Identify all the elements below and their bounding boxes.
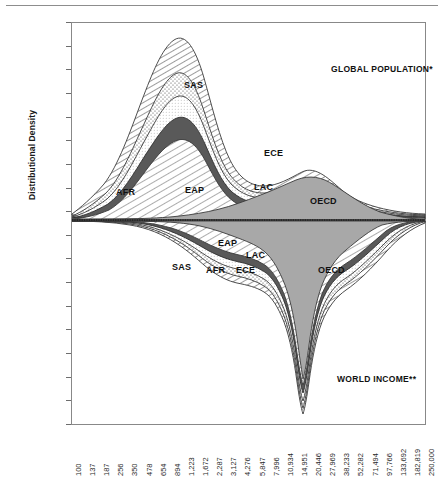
region-label-bottom-sas: SAS <box>172 262 191 272</box>
chart-annotation: WORLD INCOME** <box>337 374 416 384</box>
region-label-bottom-eap: EAP <box>218 238 237 248</box>
region-label-top-oecd: OECD <box>310 196 337 206</box>
region-label-top-ece: ECE <box>264 148 283 158</box>
region-label-top-afr: AFR <box>116 187 135 197</box>
region-label-top-sas: SAS <box>184 80 203 90</box>
region-label-top-lac: LAC <box>254 182 273 192</box>
region-label-top-eap: EAP <box>185 185 204 195</box>
region-label-bottom-lac: LAC <box>246 250 265 260</box>
chart-root: Distributional Density 0.4000.3500.3000.… <box>0 0 443 480</box>
region-label-bottom-ece: ECE <box>236 265 255 275</box>
region-label-bottom-oecd: OECD <box>318 265 345 275</box>
chart-annotation: GLOBAL POPULATION* <box>331 64 433 74</box>
region-label-bottom-afr: AFR <box>206 265 225 275</box>
